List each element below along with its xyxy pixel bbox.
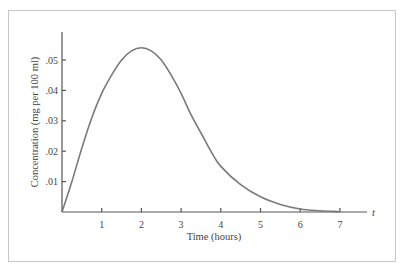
y-tick-label: .04	[46, 85, 59, 96]
x-axis-title: Time (hours)	[187, 231, 242, 243]
t-variable-label: t	[372, 207, 376, 218]
y-tick-label: .01	[46, 176, 59, 187]
x-tick-label: 6	[298, 219, 303, 230]
y-tick-label: .05	[46, 55, 59, 66]
x-tick-label: 4	[218, 219, 223, 230]
axes	[62, 32, 367, 212]
y-axis-title: Concentration (mg per 100 ml)	[29, 56, 41, 187]
x-tick-label: 1	[99, 219, 104, 230]
y-tick-label: .02	[46, 146, 59, 157]
ticks: 1234567.01.02.03.04.05	[46, 55, 343, 231]
x-tick-label: 5	[258, 219, 263, 230]
x-tick-label: 2	[139, 219, 144, 230]
y-tick-label: .03	[46, 115, 59, 126]
x-tick-label: 3	[179, 219, 184, 230]
x-tick-label: 7	[337, 219, 342, 230]
concentration-curve	[62, 48, 340, 212]
concentration-chart: 1234567.01.02.03.04.05 Time (hours) Conc…	[0, 0, 408, 275]
